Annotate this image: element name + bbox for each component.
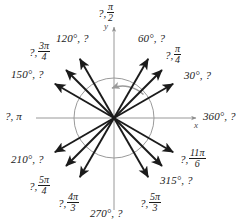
label-135-denominator: 4: [38, 52, 50, 63]
label-90-denominator: 2: [107, 13, 114, 24]
label-240-denominator: 3: [67, 203, 79, 214]
label-45-prefix: ?,: [165, 50, 173, 61]
label-angle-360: 360°, ?: [203, 111, 236, 122]
label-angle-210: 210°, ?: [11, 154, 44, 165]
label-angle-60: 60°, ?: [138, 33, 165, 44]
label-300-prefix: ?,: [140, 198, 148, 209]
label-angle-45: ?,π4: [165, 44, 182, 66]
label-angle-300: ?,5π3: [140, 192, 162, 214]
label-45-denominator: 4: [174, 55, 181, 66]
label-angle-135: ?,3π4: [29, 41, 51, 63]
label-angle-330: ?,11π6: [180, 148, 206, 170]
label-angle-225: ?,5π4: [29, 175, 51, 197]
label-240-prefix: ?,: [58, 198, 66, 209]
label-angle-240: ?,4π3: [58, 192, 80, 214]
label-angle-180: ?, π: [5, 111, 22, 122]
label-90-prefix: ?,: [98, 8, 106, 19]
x-axis-label: x: [194, 121, 198, 130]
label-angle-150: 150°, ?: [11, 69, 44, 80]
label-angle-270: 270°, ?: [90, 208, 123, 219]
label-330-fraction: 11π6: [189, 148, 206, 170]
label-angle-120: 120°, ?: [56, 33, 89, 44]
label-90-fraction: π2: [107, 2, 114, 24]
label-225-fraction: 5π4: [38, 175, 50, 197]
label-angle-315: 315°, ?: [160, 175, 193, 186]
label-135-fraction: 3π4: [38, 41, 50, 63]
label-225-denominator: 4: [38, 186, 50, 197]
label-angle-30: 30°, ?: [184, 70, 211, 81]
label-240-fraction: 4π3: [67, 192, 79, 214]
label-330-denominator: 6: [189, 159, 206, 170]
angle-diagram-figure: y x ?,π2 120°, ? ?,3π4 150°, ? 60°, ? ?,…: [0, 0, 243, 224]
label-45-fraction: π4: [174, 44, 181, 66]
label-300-denominator: 3: [149, 203, 161, 214]
label-300-fraction: 5π3: [149, 192, 161, 214]
label-330-prefix: ?,: [180, 154, 188, 165]
label-225-prefix: ?,: [29, 181, 37, 192]
label-angle-90: ?,π2: [98, 2, 115, 24]
label-135-prefix: ?,: [29, 47, 37, 58]
